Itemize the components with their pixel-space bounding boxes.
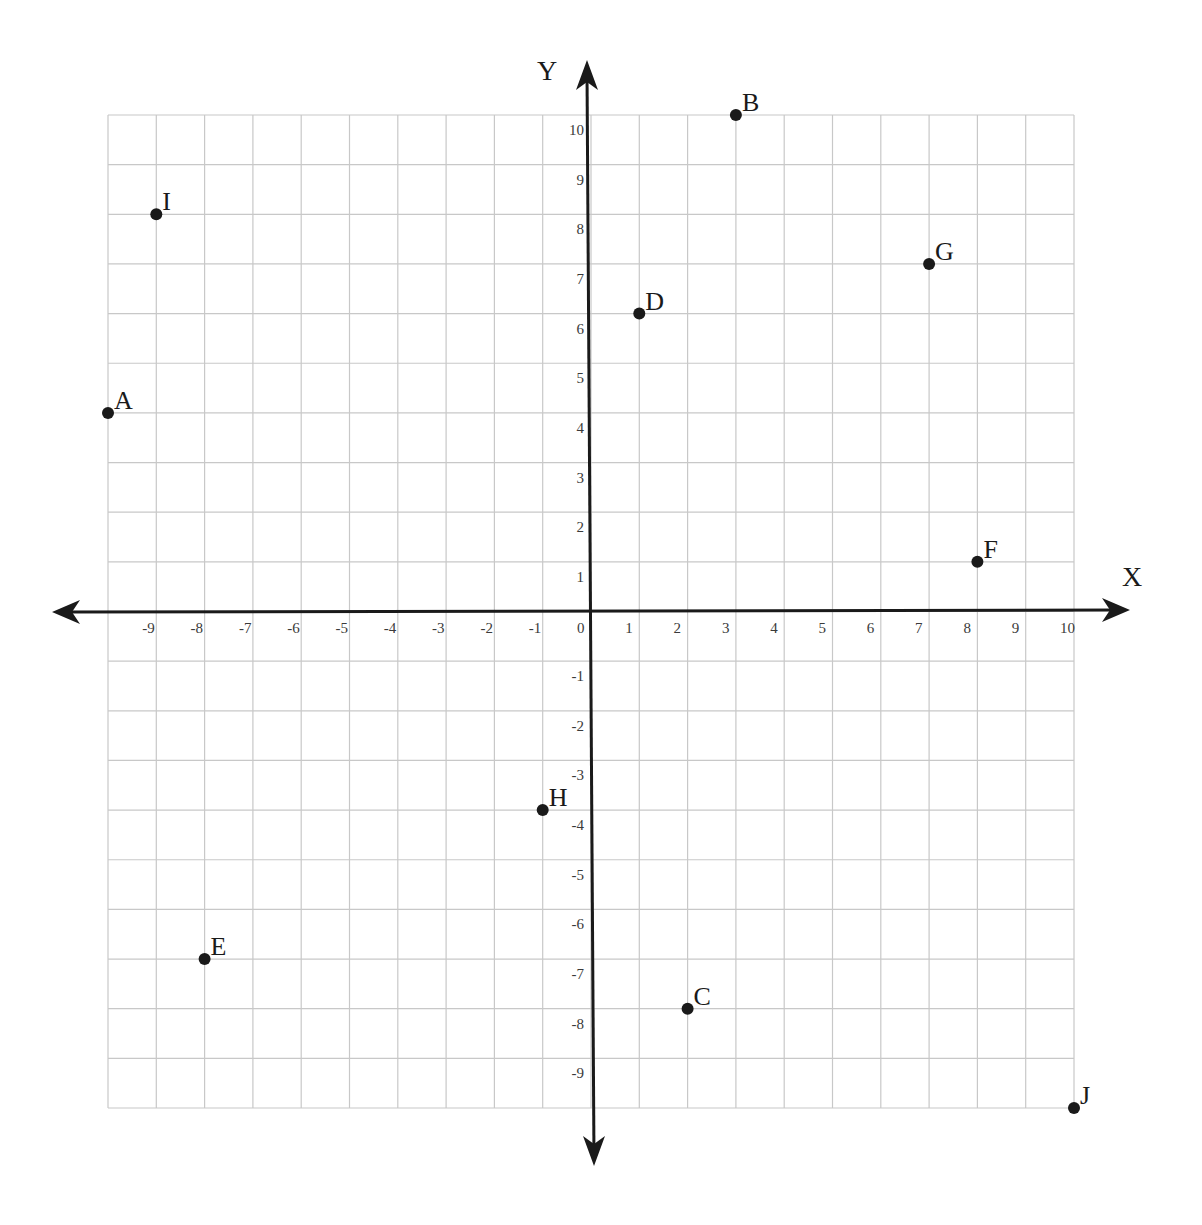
y-tick-label: 2 <box>577 519 585 535</box>
y-tick-label: -4 <box>572 817 585 833</box>
point-h: H <box>537 783 568 816</box>
y-tick-labels: 10987654321-1-2-3-4-5-6-7-8-9 <box>569 122 585 1081</box>
y-tick-label: -6 <box>572 916 585 932</box>
y-tick-label: 3 <box>577 470 585 486</box>
x-tick-labels: -9-8-7-6-5-4-3-2-1012345678910 <box>142 620 1075 636</box>
y-tick-label: 6 <box>577 321 585 337</box>
y-tick-label: -2 <box>572 718 585 734</box>
x-tick-label: -7 <box>239 620 252 636</box>
y-tick-label: -8 <box>572 1016 585 1032</box>
x-tick-label: -5 <box>336 620 349 636</box>
x-tick-label: 1 <box>625 620 633 636</box>
y-tick-label: 4 <box>577 420 585 436</box>
y-tick-label: -7 <box>572 966 585 982</box>
point-marker-icon <box>199 953 211 965</box>
x-tick-label: 10 <box>1060 620 1075 636</box>
point-marker-icon <box>633 308 645 320</box>
point-label: E <box>211 932 227 961</box>
y-tick-label: -5 <box>572 867 585 883</box>
point-marker-icon <box>971 556 983 568</box>
x-tick-label: 5 <box>819 620 827 636</box>
data-points: ABCDEFGHIJ <box>102 88 1090 1114</box>
y-tick-label: 9 <box>577 172 585 188</box>
y-tick-label: -1 <box>572 668 585 684</box>
y-tick-label: 7 <box>577 271 585 287</box>
y-tick-label: 1 <box>577 569 585 585</box>
point-j: J <box>1068 1081 1090 1114</box>
point-label: C <box>694 982 711 1011</box>
point-c: C <box>682 982 711 1015</box>
coordinate-plane: X Y -9-8-7-6-5-4-3-2-1012345678910 10987… <box>0 0 1202 1225</box>
point-label: B <box>742 88 759 117</box>
point-marker-icon <box>537 804 549 816</box>
point-marker-icon <box>730 109 742 121</box>
point-f: F <box>971 535 997 568</box>
point-label: G <box>935 237 954 266</box>
x-tick-label: 7 <box>915 620 923 636</box>
point-b: B <box>730 88 759 121</box>
x-tick-label: -4 <box>384 620 397 636</box>
x-tick-label: -8 <box>191 620 204 636</box>
axes: X Y <box>52 55 1142 1166</box>
x-tick-label: -1 <box>529 620 542 636</box>
point-g: G <box>923 237 954 270</box>
y-tick-label: 10 <box>569 122 584 138</box>
x-axis-title: X <box>1122 561 1142 592</box>
y-tick-label: 8 <box>577 221 585 237</box>
y-tick-label: 5 <box>577 370 585 386</box>
y-axis-title: Y <box>537 55 557 86</box>
x-tick-label: -6 <box>287 620 300 636</box>
point-marker-icon <box>102 407 114 419</box>
y-tick-label: -9 <box>572 1065 585 1081</box>
x-tick-label: 8 <box>963 620 971 636</box>
point-label: I <box>162 187 171 216</box>
x-tick-label: -3 <box>432 620 445 636</box>
y-tick-label: -3 <box>572 767 585 783</box>
point-label: H <box>549 783 568 812</box>
x-tick-label: 9 <box>1012 620 1020 636</box>
x-tick-label: 0 <box>577 620 585 636</box>
point-label: J <box>1080 1081 1090 1110</box>
x-tick-label: 4 <box>770 620 778 636</box>
x-tick-label: -2 <box>480 620 493 636</box>
point-e: E <box>199 932 227 965</box>
x-tick-label: 3 <box>722 620 730 636</box>
point-marker-icon <box>923 258 935 270</box>
point-marker-icon <box>150 208 162 220</box>
point-d: D <box>633 287 664 320</box>
x-tick-label: 2 <box>674 620 682 636</box>
point-marker-icon <box>682 1003 694 1015</box>
point-i: I <box>150 187 171 220</box>
point-label: D <box>645 287 664 316</box>
point-a: A <box>102 386 133 419</box>
point-label: A <box>114 386 133 415</box>
x-tick-label: 6 <box>867 620 875 636</box>
point-label: F <box>983 535 997 564</box>
x-tick-label: -9 <box>142 620 155 636</box>
point-marker-icon <box>1068 1102 1080 1114</box>
